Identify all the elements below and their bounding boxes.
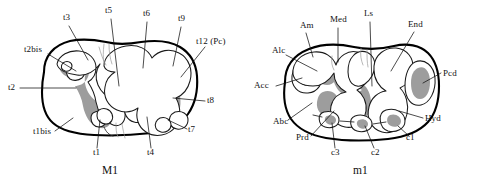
M1-t7-cusp: [155, 117, 171, 132]
label-t2: t2: [8, 83, 15, 92]
label-Abc: Abc: [273, 117, 288, 126]
M1-t1bis-notch: [97, 109, 113, 124]
M1-t12-pc-cusp: [169, 111, 188, 129]
label-Prd: Prd: [296, 133, 309, 142]
caption-M1: M1: [102, 165, 118, 177]
label-c2: c2: [371, 148, 380, 157]
m1-pcd-core: [411, 67, 430, 99]
label-Alc: Alc: [272, 46, 285, 55]
label-Ls: Ls: [364, 9, 373, 18]
label-t2bis: t2bis: [24, 45, 42, 54]
label-t1bis: t1bis: [33, 127, 51, 136]
label-End: End: [408, 20, 423, 29]
label-Hyd: Hyd: [425, 114, 441, 123]
label-t6: t6: [143, 9, 150, 18]
label-t4: t4: [147, 148, 154, 157]
label-t7: t7: [188, 125, 195, 134]
label-t8: t8: [207, 96, 214, 105]
label-c3: c3: [331, 148, 340, 157]
label-Acc: Acc: [254, 81, 269, 90]
molar-diagram-svg: [0, 0, 477, 196]
label-t3: t3: [63, 13, 70, 22]
label-t12-pc: t12 (Pc): [196, 37, 226, 46]
label-Med: Med: [330, 15, 347, 24]
label-t1: t1: [93, 148, 100, 157]
figure-root: t3 t5 t6 t9 t12 (Pc) t2bis t2 t8 t1bis t…: [0, 0, 477, 196]
caption-m1: m1: [353, 165, 368, 177]
panel-m1-drawing: [276, 22, 441, 148]
label-Pcd: Pcd: [443, 69, 457, 78]
label-Am: Am: [300, 21, 314, 30]
label-t5: t5: [105, 6, 112, 15]
label-c1: c1: [406, 133, 415, 142]
label-t9: t9: [178, 14, 185, 23]
